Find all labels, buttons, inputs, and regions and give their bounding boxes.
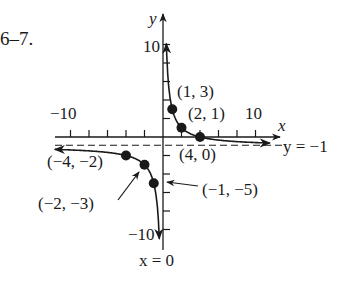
point-label-neg4-neg2: (−4, −2): [47, 152, 103, 171]
data-point: [167, 104, 177, 114]
point-label-1-3: (1, 3): [177, 82, 214, 101]
labels: 10 −10 −10 10 y x y = −1 x = 0 (1, 3) (2…: [38, 9, 328, 270]
point-label-2-1: (2, 1): [188, 104, 225, 123]
pointer-arrow-neg2-neg3: [118, 172, 139, 200]
data-point: [177, 123, 187, 133]
horizontal-asymptote-label: y = −1: [283, 137, 328, 156]
axes: [55, 14, 280, 250]
hyperbola-graph: 10 −10 −10 10 y x y = −1 x = 0 (1, 3) (2…: [0, 0, 353, 291]
vertical-asymptote-label: x = 0: [139, 251, 174, 270]
data-point: [149, 178, 159, 188]
data-point: [121, 151, 131, 161]
pointer-arrow-neg1-neg5: [167, 182, 198, 186]
data-point: [195, 132, 205, 142]
point-label-neg2-neg3: (−2, −3): [38, 194, 94, 213]
y-tick-label-10: 10: [143, 37, 160, 56]
x-axis-label: x: [277, 116, 286, 135]
data-point: [140, 160, 150, 170]
y-tick-label-neg10: −10: [128, 225, 155, 244]
y-axis-label: y: [147, 9, 157, 28]
x-tick-label-neg10: −10: [50, 104, 77, 123]
point-label-4-0: (4, 0): [179, 145, 216, 164]
point-label-neg1-neg5: (−1, −5): [202, 180, 258, 199]
x-tick-label-10: 10: [245, 104, 262, 123]
